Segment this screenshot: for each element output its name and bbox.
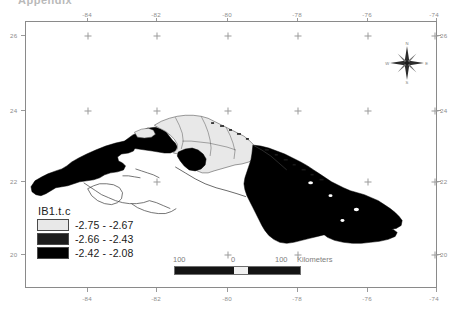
axis-bottom-label-2: -82 <box>151 295 161 302</box>
axis-bottom-label-3: -80 <box>222 295 232 302</box>
tick-bottom-3 <box>227 288 228 292</box>
tick-bottom-5 <box>367 288 368 292</box>
clipped-header-text: Appendix <box>18 0 72 6</box>
legend-swatch-class-1 <box>37 219 69 231</box>
legend-row-1[interactable]: -2.75 - -2.67 <box>37 218 155 232</box>
legend-row-3[interactable]: -2.42 - -2.08 <box>37 246 155 260</box>
compass-label-w: W <box>385 61 389 66</box>
axis-left-label-2: 24 <box>10 107 17 114</box>
region-pinar-del-rio[interactable] <box>31 140 135 196</box>
tick-right-3 <box>437 181 441 182</box>
legend-title: IB1.t.c <box>38 205 155 217</box>
north-arrow-icon: N S E W <box>384 40 430 85</box>
tick-bottom-1 <box>87 288 88 292</box>
scale-label-center: 0 <box>231 255 235 264</box>
axis-right-label-4: 20 <box>440 251 447 258</box>
compass-label-s: S <box>406 80 409 85</box>
scale-label-units: Kilometers <box>297 255 332 264</box>
axis-left-label-3: 22 <box>10 178 17 185</box>
compass-rose-icon: N S E W <box>384 40 430 85</box>
scale-seg-dark-right <box>248 267 301 274</box>
axis-right-label-2: 24 <box>440 107 447 114</box>
region-nw-light-notch[interactable] <box>134 128 155 138</box>
axis-bottom-label-4: -78 <box>292 295 302 302</box>
compass-label-n: N <box>405 41 408 46</box>
legend-label-class-2: -2.66 - -2.43 <box>75 233 134 245</box>
tick-right-2 <box>437 110 441 111</box>
tick-bottom-2 <box>156 288 157 292</box>
axis-top-label-1: -84 <box>82 11 92 18</box>
scale-label-right: 100 <box>275 255 288 264</box>
tick-right-4 <box>437 254 441 255</box>
axis-bottom-label-6: -74 <box>429 295 439 302</box>
scale-seg-dark-left <box>175 267 234 274</box>
axis-top-label-4: -78 <box>292 11 302 18</box>
legend-label-class-1: -2.75 - -2.67 <box>75 219 134 231</box>
legend-row-2[interactable]: -2.66 - -2.43 <box>37 232 155 246</box>
legend-swatch-class-2 <box>37 233 69 245</box>
axis-left-label-1: 26 <box>10 32 17 39</box>
tick-bottom-6 <box>436 288 437 292</box>
axis-top-label-6: -74 <box>429 11 439 18</box>
axis-bottom-label-1: -84 <box>82 295 92 302</box>
legend-swatch-class-3 <box>37 247 69 259</box>
axis-top-label-3: -80 <box>222 11 232 18</box>
tick-right-1 <box>437 35 441 36</box>
map-legend: IB1.t.c -2.75 - -2.67 -2.66 - -2.43 -2.4… <box>37 205 155 260</box>
scale-seg-light <box>234 267 248 274</box>
axis-right-label-1: 26 <box>440 32 447 39</box>
axis-top-label-5: -76 <box>362 11 372 18</box>
scale-bar-graphic <box>174 266 301 275</box>
map-figure: Appendix -84 -82 -80 -78 -76 -74 -84 -82… <box>0 0 459 314</box>
axis-top-label-2: -82 <box>151 11 161 18</box>
compass-label-e: E <box>425 61 428 66</box>
axis-left-label-4: 20 <box>10 251 17 258</box>
axis-right-label-3: 22 <box>440 178 447 185</box>
map-canvas[interactable]: IB1.t.c -2.75 - -2.67 -2.66 - -2.43 -2.4… <box>25 21 437 288</box>
tick-bottom-4 <box>297 288 298 292</box>
legend-label-class-3: -2.42 - -2.08 <box>75 247 134 259</box>
scale-label-left: 100 <box>173 255 186 264</box>
scale-bar-labels: 100 0 100 Kilometers <box>173 255 318 266</box>
scale-bar: 100 0 100 Kilometers <box>173 255 318 275</box>
axis-bottom-label-5: -76 <box>362 295 372 302</box>
